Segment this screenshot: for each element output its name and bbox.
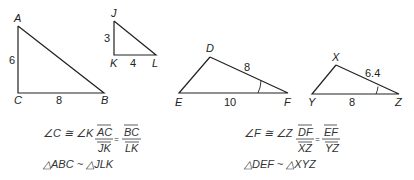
ratio-den-lk: LK — [125, 142, 139, 154]
equals-sign-2: = — [315, 135, 320, 144]
side-df-label: 8 — [244, 61, 250, 73]
similarity-statement-1: △ABC ~ △JLK — [42, 158, 114, 170]
side-yz-label: 8 — [349, 96, 355, 108]
angle-congruence-statement-1: ∠C ≅ ∠K — [43, 127, 94, 139]
equals-sign-1: = — [114, 135, 119, 144]
side-ac-label: 6 — [9, 54, 15, 66]
vertex-c-label: C — [14, 94, 22, 106]
vertex-j-label: J — [110, 7, 117, 19]
vertex-b-label: B — [101, 94, 108, 106]
side-xz-label: 6.4 — [365, 67, 380, 79]
side-ef-label: 10 — [224, 96, 236, 108]
side-cb-label: 8 — [56, 94, 62, 106]
similarity-statement-2: △DEF ~ △XYZ — [243, 158, 317, 170]
vertex-d-label: D — [206, 42, 214, 54]
vertex-a-label: A — [13, 12, 21, 24]
ratio-num-df: DF — [298, 126, 314, 138]
angle-f-arc — [258, 81, 261, 94]
side-jk-label: 3 — [104, 32, 110, 44]
triangle-abc — [18, 26, 104, 93]
side-kl-label: 4 — [130, 57, 136, 69]
ratio-den-xz: XZ — [297, 142, 313, 154]
angle-congruence-statement-2: ∠F ≅ ∠Z — [244, 127, 294, 139]
ratio-num-ac: AC — [96, 126, 112, 138]
vertex-l-label: L — [152, 57, 158, 69]
ratio-den-jk: JK — [97, 142, 112, 154]
vertex-z-label: Z — [394, 96, 403, 108]
ratio-num-bc: BC — [124, 126, 139, 138]
vertex-e-label: E — [175, 96, 183, 108]
triangle-def — [179, 57, 288, 93]
vertex-x-label: X — [331, 51, 340, 63]
ratio-num-ef: EF — [324, 126, 339, 138]
triangle-jkl — [114, 21, 156, 55]
ratio-den-yz: YZ — [325, 142, 340, 154]
vertex-y-label: Y — [308, 96, 316, 108]
vertex-f-label: F — [284, 96, 292, 108]
vertex-k-label: K — [110, 57, 118, 69]
similar-triangles-diagram: A C B 6 8 J K L 3 4 D E F 8 10 X Y Z 6.4… — [0, 0, 414, 180]
angle-z-arc — [376, 87, 378, 95]
triangle-xyz — [312, 65, 399, 94]
